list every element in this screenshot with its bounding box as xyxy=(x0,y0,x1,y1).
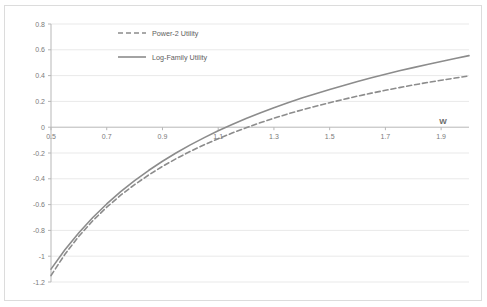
x-tick-labels: 0.50.70.91.11.31.51.71.9 xyxy=(46,133,446,140)
y-tick-label: 0.4 xyxy=(35,72,45,79)
y-tick-label: 0.8 xyxy=(35,21,45,28)
series-line-2 xyxy=(51,56,469,269)
x-axis-title: W xyxy=(439,117,447,126)
legend-label-1: Power-2 Utility xyxy=(152,29,199,38)
x-tick-label: 1.3 xyxy=(269,133,279,140)
y-tick-label: -0.6 xyxy=(33,201,45,208)
x-tick-label: 1.5 xyxy=(325,133,335,140)
y-tick-label: 0 xyxy=(41,124,45,131)
y-tick-label: -0.2 xyxy=(33,150,45,157)
chart-screenshot: 0.50.70.91.11.31.51.71.9 0.80.60.40.20-0… xyxy=(0,0,487,307)
x-axis-title-group: W xyxy=(439,117,447,126)
legend-group: Power-2 UtilityLog-Family Utility xyxy=(118,29,208,62)
x-tick-label: 1.7 xyxy=(381,133,391,140)
x-tick-label: 1.9 xyxy=(436,133,446,140)
y-tick-label: -1.2 xyxy=(33,279,45,286)
series-line-1 xyxy=(51,76,469,276)
x-tick-label: 0.9 xyxy=(158,133,168,140)
y-tick-label: -0.8 xyxy=(33,227,45,234)
line-chart-svg: 0.50.70.91.11.31.51.71.9 0.80.60.40.20-0… xyxy=(0,0,487,307)
gridlines-group xyxy=(51,24,469,282)
legend-label-2: Log-Family Utility xyxy=(152,53,208,62)
x-tick-label: 1.1 xyxy=(213,133,223,140)
x-tick-label: 0.5 xyxy=(46,133,56,140)
y-tick-labels: 0.80.60.40.20-0.2-0.4-0.6-0.8-1-1.2 xyxy=(33,21,45,286)
y-tick-label: 0.6 xyxy=(35,46,45,53)
y-tick-label: 0.2 xyxy=(35,98,45,105)
y-tick-label: -1 xyxy=(39,253,45,260)
x-tick-label: 0.7 xyxy=(102,133,112,140)
series-group xyxy=(51,56,469,276)
chart-plot-area: 0.50.70.91.11.31.51.71.9 0.80.60.40.20-0… xyxy=(0,0,487,307)
y-tick-label: -0.4 xyxy=(33,175,45,182)
